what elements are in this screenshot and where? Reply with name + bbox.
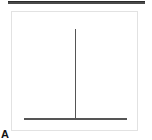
figure-panel-a: A [0, 0, 152, 140]
plot-area [12, 12, 137, 130]
figure-top-divider [8, 1, 145, 4]
panel-label: A [1, 129, 9, 140]
plot-frame [11, 11, 138, 131]
spike-trace [75, 29, 77, 120]
